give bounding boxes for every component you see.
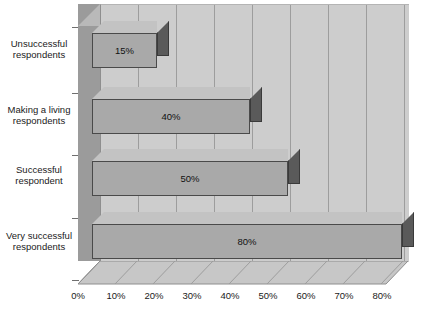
x-axis-tick-label: 60% bbox=[291, 290, 321, 301]
bar-top-face bbox=[92, 87, 250, 99]
category-label: Unsuccessful respondents bbox=[0, 38, 78, 60]
bar-chart: Unsuccessful respondents Making a living… bbox=[0, 0, 423, 312]
bar-very-successful: 80% bbox=[92, 224, 402, 259]
x-axis-tick-label: 70% bbox=[329, 290, 359, 301]
x-axis-tick-label: 30% bbox=[177, 290, 207, 301]
bar-value-label: 15% bbox=[92, 33, 157, 68]
floor bbox=[78, 261, 423, 284]
category-label: Making a living respondents bbox=[0, 104, 78, 126]
category-label-line2: respondents bbox=[0, 49, 78, 60]
category-label-line1: Unsuccessful bbox=[0, 38, 78, 49]
category-label: Successful respondent bbox=[0, 164, 78, 186]
bar-successful: 50% bbox=[92, 161, 288, 196]
category-label-line1: Successful bbox=[0, 164, 78, 175]
bar-unsuccessful: 15% bbox=[92, 33, 157, 68]
category-label-line1: Making a living bbox=[0, 104, 78, 115]
category-label-line2: respondent bbox=[0, 175, 78, 186]
x-axis-tick-label: 0% bbox=[63, 290, 93, 301]
bar-value-label: 80% bbox=[92, 224, 402, 259]
x-axis-tick-label: 20% bbox=[139, 290, 169, 301]
x-axis-tick-label: 40% bbox=[215, 290, 245, 301]
x-axis-tick-label: 10% bbox=[101, 290, 131, 301]
x-axis-tick-label: 50% bbox=[253, 290, 283, 301]
bar-value-label: 40% bbox=[92, 99, 250, 134]
bar-top-face bbox=[92, 21, 157, 33]
x-axis-tick-label: 80% bbox=[367, 290, 397, 301]
bar-value-label: 50% bbox=[92, 161, 288, 196]
category-label: Very successful respondents bbox=[0, 230, 78, 252]
category-label-line2: respondents bbox=[0, 115, 78, 126]
bar-top-face bbox=[92, 212, 402, 224]
category-label-line2: respondents bbox=[0, 241, 78, 252]
chart-3d-scene: 15% 40% 50% 80% bbox=[78, 4, 423, 289]
bar-making-a-living: 40% bbox=[92, 99, 250, 134]
bar-top-face bbox=[92, 149, 288, 161]
category-label-line1: Very successful bbox=[0, 230, 78, 241]
